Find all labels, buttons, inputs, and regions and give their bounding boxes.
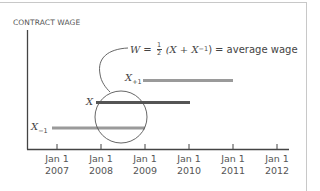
overlap-highlight-circle bbox=[95, 91, 147, 143]
x-tick-label-2008: Jan 12008 bbox=[81, 153, 121, 177]
x-tick-label-2012: Jan 12012 bbox=[257, 153, 297, 177]
x-tick-label-2009: Jan 12009 bbox=[125, 153, 165, 177]
x-tick-label-2007: Jan 12007 bbox=[37, 153, 77, 177]
annotation-leader-curve bbox=[100, 48, 128, 92]
x-tick-label-2010: Jan 12010 bbox=[169, 153, 209, 177]
series-x-minus-1-label: X−1 bbox=[31, 121, 48, 135]
series-x-plus-1-label: X+1 bbox=[125, 72, 142, 86]
fraction: 1 2 bbox=[157, 42, 162, 56]
average-wage-formula: W = 1 2 (X + X−1) = average wage bbox=[130, 42, 298, 56]
x-ticks bbox=[57, 144, 277, 149]
x-tick-label-2011: Jan 12011 bbox=[213, 153, 253, 177]
series-x-label: X bbox=[86, 96, 93, 107]
